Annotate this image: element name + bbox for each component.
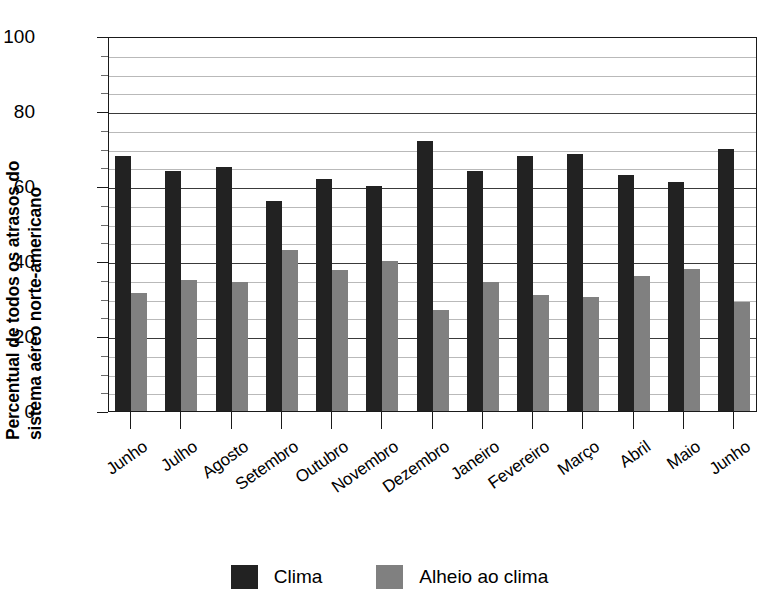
y-tick-minor [101, 206, 108, 207]
bar-group [165, 38, 197, 411]
x-tick [281, 412, 282, 429]
chart-figure: Percentual de todos os atrasos do sistem… [0, 0, 779, 612]
bar-alheio [181, 280, 197, 411]
y-tick-label: 20 [0, 326, 35, 348]
x-tick [180, 412, 181, 429]
bar-clima [668, 182, 684, 411]
bar-alheio [483, 282, 499, 411]
y-tick-label: 100 [0, 26, 35, 48]
y-tick-minor [101, 281, 108, 282]
y-tick-label: 60 [0, 176, 35, 198]
bar-clima [417, 141, 433, 411]
x-tick [331, 412, 332, 429]
y-tick-major [97, 187, 108, 188]
bar-alheio [131, 293, 147, 411]
bar-group [718, 38, 750, 411]
legend-item: Alheio ao clima [376, 565, 548, 589]
y-tick-minor [101, 131, 108, 132]
y-tick-label: 0 [0, 401, 35, 423]
x-tick [482, 412, 483, 429]
bar-group [467, 38, 499, 411]
y-tick-minor [101, 168, 108, 169]
y-tick-label: 40 [0, 251, 35, 273]
bar-group [668, 38, 700, 411]
bar-group [316, 38, 348, 411]
y-tick-major [97, 262, 108, 263]
x-tick [130, 412, 131, 429]
y-tick-label: 80 [0, 101, 35, 123]
x-tick [683, 412, 684, 429]
y-axis-title: Percentual de todos os atrasos do sistem… [0, 0, 70, 440]
bar-group [567, 38, 599, 411]
bar-clima [467, 171, 483, 411]
legend-swatch [231, 565, 258, 589]
y-axis-title-line-2: sistema aéreo norte-americano [25, 10, 46, 440]
bar-alheio [583, 297, 599, 411]
bar-alheio [684, 269, 700, 412]
y-tick-major [97, 337, 108, 338]
bar-clima [366, 186, 382, 411]
x-tick [582, 412, 583, 429]
y-tick-minor [101, 375, 108, 376]
x-tick [432, 412, 433, 429]
y-tick-minor [101, 318, 108, 319]
bar-alheio [533, 295, 549, 411]
bar-clima [567, 154, 583, 411]
y-tick-minor [101, 150, 108, 151]
x-tick [733, 412, 734, 429]
bar-alheio [634, 276, 650, 411]
x-tick-label: Abril [616, 437, 655, 472]
y-tick-minor [101, 356, 108, 357]
bar-alheio [433, 310, 449, 411]
x-tick-label: Julho [158, 437, 202, 476]
y-tick-major [97, 412, 108, 413]
x-tick-label: Março [554, 437, 603, 480]
bar-group [115, 38, 147, 411]
bar-clima [718, 149, 734, 412]
bar-group [517, 38, 549, 411]
bar-group [216, 38, 248, 411]
legend-item: Clima [231, 565, 323, 589]
chart-legend: ClimaAlheio ao clima [0, 565, 779, 589]
bar-clima [115, 156, 131, 411]
y-tick-minor [101, 243, 108, 244]
plot-area [108, 37, 757, 412]
bar-group [618, 38, 650, 411]
bar-clima [316, 179, 332, 412]
y-tick-minor [101, 75, 108, 76]
bar-alheio [332, 270, 348, 411]
bar-alheio [232, 282, 248, 411]
y-tick-major [97, 37, 108, 38]
x-tick [381, 412, 382, 429]
bar-clima [165, 171, 181, 411]
x-tick-label: Maio [663, 437, 704, 474]
y-axis-title-line-1: Percentual de todos os atrasos do [3, 10, 24, 440]
bar-clima [266, 201, 282, 411]
x-tick [532, 412, 533, 429]
bar-clima [517, 156, 533, 411]
legend-label: Clima [274, 566, 323, 588]
x-tick-label: Junho [103, 437, 152, 479]
bar-groups [109, 38, 756, 411]
bar-group [417, 38, 449, 411]
bar-group [366, 38, 398, 411]
legend-label: Alheio ao clima [419, 566, 548, 588]
bar-clima [216, 167, 232, 411]
bar-group [266, 38, 298, 411]
bar-alheio [282, 250, 298, 411]
x-tick [633, 412, 634, 429]
y-tick-major [97, 112, 108, 113]
y-tick-minor [101, 393, 108, 394]
y-tick-minor [101, 300, 108, 301]
bar-alheio [734, 302, 750, 411]
y-tick-minor [101, 93, 108, 94]
y-tick-minor [101, 56, 108, 57]
y-tick-minor [101, 225, 108, 226]
x-tick-label: Junho [706, 437, 755, 479]
bar-clima [618, 175, 634, 411]
legend-swatch [376, 565, 403, 589]
x-tick [231, 412, 232, 429]
bar-alheio [382, 261, 398, 411]
